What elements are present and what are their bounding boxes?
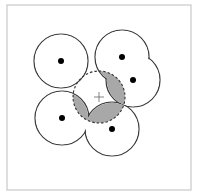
center-dot xyxy=(58,58,64,64)
plus-marker-icon xyxy=(94,92,104,102)
diagram-canvas xyxy=(0,0,197,195)
center-dot xyxy=(119,54,125,60)
center-dot xyxy=(130,77,136,83)
circle-union xyxy=(34,30,160,156)
center-dot xyxy=(59,115,65,121)
center-dot xyxy=(109,126,115,132)
